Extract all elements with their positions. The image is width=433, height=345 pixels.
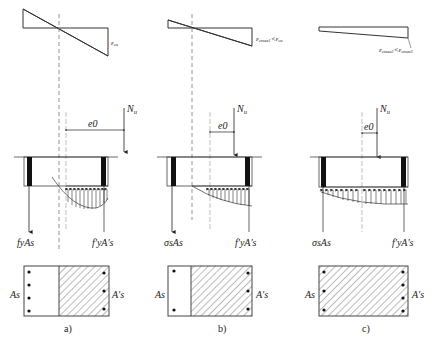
strain-diagram-b xyxy=(168,20,252,46)
compression-area-label-a: A's xyxy=(112,290,124,300)
section-elevation-c xyxy=(310,157,408,187)
cross-section-a xyxy=(24,266,109,316)
section-elevation-b xyxy=(157,157,262,186)
panel-b xyxy=(157,14,262,316)
tension-area-label-b: As xyxy=(155,290,165,300)
load-label-a: Nu xyxy=(127,104,137,115)
e0-label-b: e0 xyxy=(218,121,227,131)
compression-force-label-c: f'yA's xyxy=(392,238,414,248)
stress-block-c xyxy=(321,187,408,204)
load-label-c: Nu xyxy=(380,104,390,115)
stress-block-b xyxy=(192,186,252,206)
panel-c xyxy=(310,27,411,316)
strain-diagram-a xyxy=(23,9,108,56)
strain-diagram-c xyxy=(319,27,408,38)
panel-a xyxy=(14,9,124,316)
e0-label-c: e0 xyxy=(364,122,373,132)
caption-b: b) xyxy=(218,324,226,334)
tension-force-label-b: σsAs xyxy=(164,238,183,248)
strain-label-c: εcmax2<εcmax1 xyxy=(379,47,413,55)
tension-area-label-c: As xyxy=(305,290,315,300)
eccentric-compression-diagram xyxy=(0,0,433,345)
e0-label-a: e0 xyxy=(88,119,97,129)
tension-force-label-a: fyAs xyxy=(17,238,34,248)
tension-area-label-a: As xyxy=(10,290,20,300)
tension-force-label-c: σsAs xyxy=(312,238,331,248)
compression-area-label-c: A's xyxy=(412,290,424,300)
compression-force-label-b: f'yA's xyxy=(235,238,257,248)
strain-label-a: εcu xyxy=(111,40,118,48)
strain-label-b: εcmax1<εcu xyxy=(256,36,282,44)
cross-section-c xyxy=(319,266,408,316)
caption-c: c) xyxy=(362,324,370,334)
load-label-b: Nu xyxy=(237,104,247,115)
caption-a: a) xyxy=(64,324,72,334)
cross-section-b xyxy=(168,266,252,316)
compression-area-label-b: A's xyxy=(256,290,268,300)
compression-force-label-a: f'yA's xyxy=(92,238,114,248)
stress-block-a xyxy=(52,177,108,209)
